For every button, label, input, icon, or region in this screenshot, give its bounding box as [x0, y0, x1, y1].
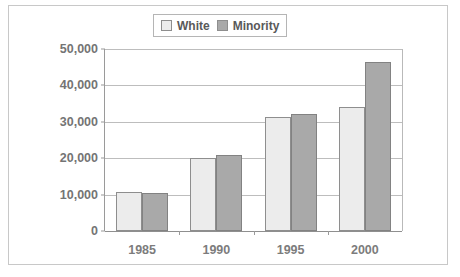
white-swatch-icon: [161, 20, 172, 31]
chart-figure: White Minority 010,00020,00030,00040,000…: [0, 0, 460, 277]
y-tick-label-0: 0: [91, 224, 105, 238]
y-tick-label-10000: 10,000: [60, 188, 105, 202]
legend-entry-white: White: [161, 19, 210, 33]
minority-swatch-icon: [217, 20, 228, 31]
bar-white-1990[interactable]: [190, 158, 216, 231]
bar-group-2000: 2000: [328, 49, 402, 231]
x-tick-label-1985: 1985: [105, 231, 179, 257]
legend-label-minority: Minority: [233, 19, 280, 33]
bar-white-2000[interactable]: [339, 107, 365, 231]
bar-group-bars: [105, 49, 179, 231]
bar-group-bars: [328, 49, 402, 231]
bar-minority-1990[interactable]: [216, 155, 242, 231]
plot-area: 010,00020,00030,00040,00050,000 19851990…: [104, 49, 403, 231]
y-tick-label-40000: 40,000: [60, 78, 105, 92]
x-tick-label-1995: 1995: [254, 231, 328, 257]
y-tick-label-20000: 20,000: [60, 151, 105, 165]
bar-white-1995[interactable]: [265, 117, 291, 231]
y-tick-label-50000: 50,000: [60, 42, 105, 56]
bar-minority-1995[interactable]: [291, 114, 317, 231]
x-tick-mark-3: [328, 231, 329, 235]
y-tick-label-30000: 30,000: [60, 115, 105, 129]
bar-group-1995: 1995: [254, 49, 328, 231]
title-remnant: [0, 0, 460, 4]
bar-minority-2000[interactable]: [365, 62, 391, 231]
legend-label-white: White: [177, 19, 210, 33]
bar-group-bars: [179, 49, 253, 231]
x-tick-label-1990: 1990: [179, 231, 253, 257]
legend-entry-minority: Minority: [217, 19, 280, 33]
bar-group-bars: [254, 49, 328, 231]
x-tick-label-2000: 2000: [328, 231, 402, 257]
bar-white-1985[interactable]: [116, 192, 142, 231]
bar-group-1990: 1990: [179, 49, 253, 231]
x-tick-mark-1: [179, 231, 180, 235]
bar-minority-1985[interactable]: [142, 193, 168, 231]
bar-groups: 1985199019952000: [105, 49, 402, 231]
chart-legend: White Minority: [153, 14, 287, 37]
x-tick-mark-2: [254, 231, 255, 235]
bar-group-1985: 1985: [105, 49, 179, 231]
